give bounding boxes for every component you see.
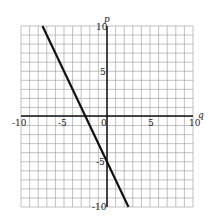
y-tick-label: -10 — [92, 202, 107, 212]
y-tick-label: 5 — [100, 67, 106, 77]
x-tick-label: -5 — [58, 118, 67, 128]
x-tick-label: 0 — [101, 118, 107, 128]
y-tick-label: -5 — [96, 157, 105, 167]
x-tick-label: 10 — [189, 118, 201, 128]
y-tick-label: 10 — [96, 22, 108, 32]
x-tick-label: 5 — [148, 118, 154, 128]
x-tick-label: -10 — [12, 118, 27, 128]
chart: p q -10 -5 0 5 10 10 5 -5 -10 — [0, 0, 214, 221]
